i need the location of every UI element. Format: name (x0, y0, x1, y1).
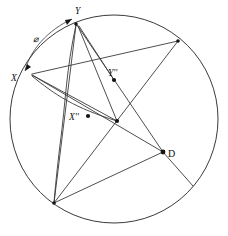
node-dot-upper-right (176, 39, 180, 43)
label-y: Y (75, 6, 82, 16)
label-d: D (168, 148, 175, 159)
node-dot-y (74, 22, 78, 26)
node-dot-y-double-prime (112, 78, 116, 82)
chord-y-d (77, 25, 163, 152)
label-angle-phi: ⌀ (33, 34, 40, 44)
figure-root: X Y X'' Y'' D ⌀ (0, 0, 228, 236)
node-dot-center (115, 119, 119, 123)
geometry-diagram: X Y X'' Y'' D ⌀ (0, 0, 228, 236)
node-dot-d (161, 150, 166, 155)
node-dot-bottom (52, 201, 56, 205)
label-x-double-prime: X'' (68, 112, 80, 122)
label-y-double-prime: Y'' (108, 68, 118, 78)
node-dot-x-double-prime (86, 114, 90, 118)
chord-bottom-d (54, 152, 163, 203)
label-x: X (10, 73, 18, 83)
